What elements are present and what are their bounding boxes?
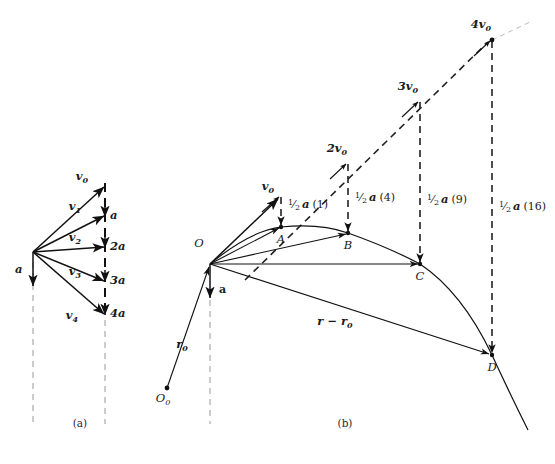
panel-b-point-B-dot <box>346 231 350 235</box>
panel-a-label-3a: 3a <box>110 273 125 287</box>
panel-b-label-B: B <box>343 238 352 252</box>
panel-b-label-A: A <box>276 232 285 246</box>
panel-a-label-4a: 4a <box>110 306 125 320</box>
panel-a-label-a-origin: a <box>15 262 22 276</box>
panel-b-point-D-dot <box>490 353 494 357</box>
panel-b-caption: (b) <box>338 417 353 429</box>
panel-b-drop-label-1: 1⁄2a(1) <box>288 197 328 212</box>
panel-b-label-D: D <box>486 360 496 374</box>
panel-b-label-C: C <box>416 269 425 283</box>
panel-b-point-A-dot <box>279 225 283 229</box>
panel-b-label-a: a <box>219 283 226 296</box>
panel-b-point-C-dot <box>418 262 422 266</box>
panel-b-drop-label-9: 1⁄2a(9) <box>427 192 467 207</box>
panel-a-label-2a: 2a <box>109 239 125 253</box>
panel-b-drop-label-4: 1⁄2a(4) <box>355 190 395 205</box>
panel-b-point-O0-dot <box>165 386 170 391</box>
panel-b-label-O: O <box>194 236 204 250</box>
physics-figure-projectile-vectors: v0 v1 v2 v3 v4 a 2a 3a 4a a (a) <box>0 0 555 464</box>
panel-a-label-a-1: a <box>110 208 117 222</box>
panel-b-point-4v0-dot <box>490 38 495 43</box>
panel-a-caption: (a) <box>73 417 87 429</box>
